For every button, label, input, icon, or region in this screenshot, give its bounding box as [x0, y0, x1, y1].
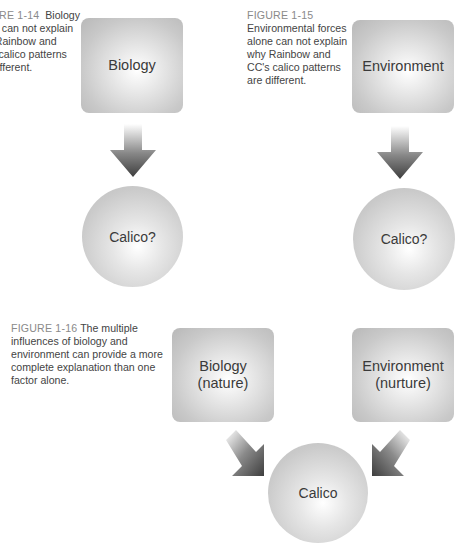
caption-label: FIGURE 1-14 — [0, 9, 39, 21]
caption-line: factor alone. — [11, 374, 69, 386]
down-arrow-icon — [110, 124, 156, 178]
calico-circle: Calico — [268, 443, 368, 543]
caption-line: why Rainbow and — [0, 35, 57, 47]
caption-line: complete explanation than one — [11, 361, 155, 373]
caption-line: Environmental forces — [247, 22, 347, 34]
caption-line: environment can provide a more — [11, 348, 163, 360]
figure-1-16-caption: FIGURE 1-16 The multiple influences of b… — [11, 322, 181, 387]
figure-1-14-caption: FIGURE 1-14 FIGURE 1-14 BiologyBiology a… — [0, 9, 83, 74]
box-label: Biology — [108, 57, 156, 74]
environment-box: Environment — [352, 20, 454, 113]
box-label: Environment — [362, 58, 443, 75]
calico-question-circle-left: Calico? — [82, 186, 183, 287]
caption-line: CC's calico patterns — [0, 48, 67, 60]
caption-line: alone can not explain — [0, 22, 73, 34]
caption-label: FIGURE 1-16 — [11, 322, 77, 334]
diagonal-arrow-down-left-icon — [364, 428, 414, 480]
calico-question-circle-right: Calico? — [353, 188, 455, 290]
caption-line: The multiple — [80, 322, 138, 334]
figure-1-15-caption: FIGURE 1-15 Environmental forces alone c… — [247, 9, 357, 87]
caption-label: FIGURE 1-15 — [247, 9, 313, 21]
circle-label: Calico — [299, 485, 338, 501]
caption-line: alone can not explain — [247, 35, 347, 47]
circle-label: Calico? — [381, 231, 428, 247]
box-label-line2: (nature) — [198, 375, 249, 392]
biology-box: Biology — [81, 18, 183, 113]
circle-label: Calico? — [109, 229, 156, 245]
caption-line: CC's calico patterns — [247, 61, 341, 73]
caption-line-1-text: Biology — [45, 9, 80, 21]
caption-line: are different. — [0, 61, 32, 73]
down-arrow-icon — [377, 126, 423, 180]
environment-nurture-box: Environment (nurture) — [352, 328, 454, 422]
caption-line: are different. — [247, 74, 306, 86]
box-label-line1: Biology — [199, 358, 247, 375]
caption-line: why Rainbow and — [247, 48, 331, 60]
box-label-line1: Environment — [362, 358, 443, 375]
caption-line: influences of biology and — [11, 335, 128, 347]
diagonal-arrow-down-right-icon — [222, 428, 272, 480]
box-label-line2: (nurture) — [375, 375, 431, 392]
biology-nature-box: Biology (nature) — [172, 328, 274, 422]
